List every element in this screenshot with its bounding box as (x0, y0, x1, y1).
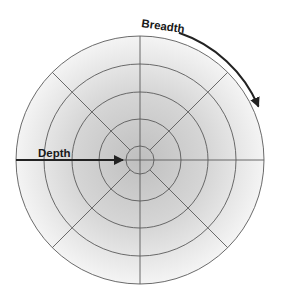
depth-label: Depth (38, 147, 71, 159)
depth-breadth-diagram: Depth Breadth (0, 0, 282, 305)
breadth-label: Breadth (141, 17, 186, 35)
